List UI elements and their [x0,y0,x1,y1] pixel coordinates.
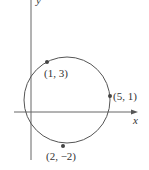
point-2-neg2 [61,144,65,148]
point-label-1-3: (1, 3) [44,67,68,80]
x-axis-label: x [132,114,138,126]
diagram-canvas: x y (1, 3) (5, 1) (2, −2) [0,0,149,170]
point-label-2-neg2: (2, −2) [46,150,76,163]
point-1-3 [45,60,49,64]
y-axis-label: y [35,0,41,6]
point-5-1 [108,94,112,98]
point-label-5-1: (5, 1) [113,90,137,103]
